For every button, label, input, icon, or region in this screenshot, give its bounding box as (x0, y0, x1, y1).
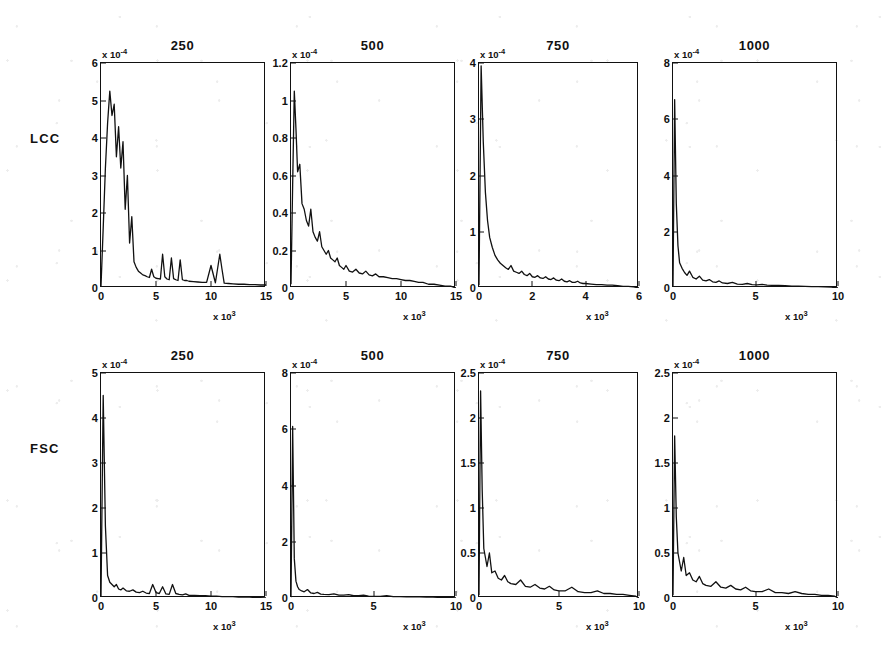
y-tick-label-fsc-1000-0: 0 (664, 592, 670, 604)
y-tick-label-fsc-500-3: 6 (282, 423, 288, 435)
x-axis-exponent-lcc-750: x 103 (586, 309, 609, 322)
x-tick-label-lcc-500-2: 10 (395, 290, 407, 302)
y-tick-label-fsc-250-2: 2 (92, 502, 98, 514)
plot-panel-fsc-1000: 1000x 10-400.511.522.50510x 103 (672, 372, 837, 597)
y-tick-label-lcc-750-2: 2 (470, 170, 476, 182)
trace-line-fsc-500 (291, 426, 456, 598)
y-tick-label-lcc-250-5: 5 (92, 95, 98, 107)
y-tick-label-lcc-500-6: 1.2 (272, 57, 287, 69)
x-tick-label-fsc-750-2: 10 (633, 600, 645, 612)
x-tick-label-fsc-750-1: 5 (556, 600, 562, 612)
y-tick-label-fsc-750-5: 2.5 (461, 367, 476, 379)
plot-panel-fsc-500: 500x 10-4024680510x 103 (290, 372, 455, 597)
axes-box-lcc-1000: 024680510 (672, 62, 837, 287)
x-tick-label-lcc-750-2: 4 (583, 290, 589, 302)
x-tick-label-lcc-250-1: 5 (153, 290, 159, 302)
plot-panel-lcc-500: 500x 10-400.20.40.60.811.2051015x 103 (290, 62, 455, 287)
y-tick-label-lcc-500-3: 0.6 (272, 170, 287, 182)
data-trace-fsc-750 (479, 373, 639, 598)
x-tick-label-lcc-250-3: 15 (260, 290, 272, 302)
x-axis-exponent-lcc-250: x 103 (213, 309, 236, 322)
y-axis-exponent-fsc-1000: x 10-4 (674, 357, 699, 370)
y-tick-label-fsc-250-4: 4 (92, 412, 98, 424)
y-tick-label-lcc-1000-4: 8 (664, 57, 670, 69)
y-axis-exponent-lcc-1000: x 10-4 (674, 47, 699, 60)
plot-panel-fsc-750: 750x 10-400.511.522.50510x 103 (478, 372, 638, 597)
y-tick-label-lcc-500-2: 0.4 (272, 207, 287, 219)
x-tick-label-fsc-1000-0: 0 (670, 600, 676, 612)
y-tick-label-lcc-250-4: 4 (92, 132, 98, 144)
y-tick-label-fsc-250-3: 3 (92, 457, 98, 469)
y-tick-label-fsc-750-3: 1.5 (461, 457, 476, 469)
y-tick-label-fsc-250-0: 0 (92, 592, 98, 604)
x-axis-exponent-lcc-500: x 103 (403, 309, 426, 322)
y-axis-exponent-lcc-750: x 10-4 (480, 47, 505, 60)
x-tick-label-lcc-750-0: 0 (476, 290, 482, 302)
x-tick-label-fsc-500-2: 10 (450, 600, 462, 612)
x-axis-exponent-lcc-1000: x 103 (785, 309, 808, 322)
axes-box-fsc-500: 024680510 (290, 372, 455, 597)
y-axis-exponent-lcc-500: x 10-4 (292, 47, 317, 60)
y-tick-label-lcc-250-6: 6 (92, 57, 98, 69)
axes-box-lcc-500: 00.20.40.60.811.2051015 (290, 62, 455, 287)
trace-line-fsc-750 (479, 391, 639, 598)
x-tick-label-lcc-500-1: 5 (343, 290, 349, 302)
y-tick-label-lcc-750-0: 0 (470, 282, 476, 294)
row-label-lcc: LCC (30, 131, 60, 146)
y-tick-label-fsc-500-2: 4 (282, 480, 288, 492)
x-axis-exponent-fsc-750: x 103 (586, 619, 609, 632)
y-tick-label-fsc-500-1: 2 (282, 536, 288, 548)
x-axis-exponent-fsc-250: x 103 (213, 619, 236, 632)
plot-panel-fsc-250: 250x 10-4012345051015x 103 (100, 372, 265, 597)
x-tick-label-lcc-1000-1: 5 (752, 290, 758, 302)
y-axis-exponent-fsc-750: x 10-4 (480, 357, 505, 370)
y-tick-label-fsc-250-1: 1 (92, 547, 98, 559)
data-trace-lcc-1000 (673, 63, 838, 288)
y-tick-label-fsc-1000-1: 0.5 (654, 547, 669, 559)
trace-line-lcc-250 (101, 91, 266, 286)
data-trace-fsc-1000 (673, 373, 838, 598)
axes-box-fsc-1000: 00.511.522.50510 (672, 372, 837, 597)
x-tick-label-lcc-750-3: 6 (636, 290, 642, 302)
y-tick-label-fsc-250-5: 5 (92, 367, 98, 379)
y-tick-label-lcc-500-1: 0.2 (272, 245, 287, 257)
y-tick-label-lcc-1000-3: 6 (664, 113, 670, 125)
axes-box-lcc-750: 012340246 (478, 62, 638, 287)
x-tick-label-lcc-500-0: 0 (288, 290, 294, 302)
x-tick-label-fsc-750-0: 0 (476, 600, 482, 612)
y-tick-label-lcc-750-4: 4 (470, 57, 476, 69)
x-axis-exponent-fsc-1000: x 103 (785, 619, 808, 632)
y-tick-label-lcc-250-0: 0 (92, 282, 98, 294)
x-tick-label-fsc-250-2: 10 (205, 600, 217, 612)
y-tick-label-lcc-1000-0: 0 (664, 282, 670, 294)
data-trace-lcc-750 (479, 63, 639, 288)
x-tick-label-lcc-250-0: 0 (98, 290, 104, 302)
y-tick-label-lcc-250-2: 2 (92, 207, 98, 219)
y-tick-label-fsc-1000-4: 2 (664, 412, 670, 424)
y-tick-label-fsc-500-4: 8 (282, 367, 288, 379)
x-tick-label-lcc-1000-2: 10 (832, 290, 844, 302)
axes-box-lcc-250: 0123456051015 (100, 62, 265, 287)
y-tick-label-lcc-1000-2: 4 (664, 170, 670, 182)
y-axis-exponent-fsc-500: x 10-4 (292, 357, 317, 370)
y-tick-label-lcc-250-3: 3 (92, 170, 98, 182)
x-tick-label-lcc-500-3: 15 (450, 290, 462, 302)
x-tick-label-lcc-1000-0: 0 (670, 290, 676, 302)
figure-canvas: LCC FSC 250x 10-40123456051015x 103 500x… (0, 0, 888, 662)
x-tick-label-fsc-1000-1: 5 (752, 600, 758, 612)
y-tick-label-lcc-1000-1: 2 (664, 226, 670, 238)
y-tick-label-fsc-1000-3: 1.5 (654, 457, 669, 469)
data-trace-fsc-250 (101, 373, 266, 598)
x-tick-label-fsc-500-1: 5 (370, 600, 376, 612)
x-tick-label-lcc-250-2: 10 (205, 290, 217, 302)
y-tick-label-fsc-750-4: 2 (470, 412, 476, 424)
plot-panel-lcc-250: 250x 10-40123456051015x 103 (100, 62, 265, 287)
y-tick-label-fsc-500-0: 0 (282, 592, 288, 604)
data-trace-lcc-250 (101, 63, 266, 288)
plot-panel-lcc-750: 750x 10-4012340246x 103 (478, 62, 638, 287)
trace-line-fsc-250 (101, 396, 266, 599)
y-tick-label-fsc-750-2: 1 (470, 502, 476, 514)
axes-box-fsc-250: 012345051015 (100, 372, 265, 597)
y-tick-label-fsc-1000-2: 1 (664, 502, 670, 514)
y-axis-exponent-fsc-250: x 10-4 (102, 357, 127, 370)
